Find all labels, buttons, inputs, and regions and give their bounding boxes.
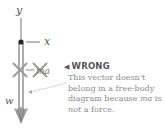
- note-text-3: a force.: [81, 105, 114, 114]
- annotation-note: This vector doesn't belong in a free-bod…: [68, 73, 164, 115]
- annotation-pointer-arrowhead: [28, 90, 32, 94]
- origin-dot: [18, 39, 23, 44]
- free-body-diagram: y x w ma ◀WRONG This vector doesn't belo…: [0, 0, 164, 131]
- note-text-2: is: [152, 94, 161, 103]
- note-not: not: [68, 105, 81, 114]
- y-axis-label: y: [16, 4, 22, 17]
- ma-vector-label: ma: [36, 66, 50, 76]
- x-axis-label: x: [44, 35, 50, 48]
- weight-vector-arrow: [14, 43, 28, 124]
- annotation-pointer-line: [30, 83, 66, 92]
- note-ma: ma: [140, 94, 152, 103]
- wrong-label: WRONG: [72, 61, 110, 71]
- triangle-left-icon: ◀: [64, 63, 70, 71]
- weight-vector-label: w: [5, 95, 14, 106]
- wrong-heading: ◀WRONG: [64, 61, 110, 71]
